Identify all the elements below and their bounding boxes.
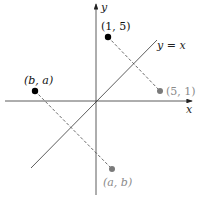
point-5-1 [157, 88, 163, 94]
point-1-5-label: (1, 5) [101, 20, 131, 33]
point-a-b-label: (a, b) [103, 176, 132, 189]
x-axis-label: x [186, 103, 193, 116]
reflection-diagram: y x y = x (1, 5) (5, 1) (b, a) (a, b) [0, 0, 199, 204]
point-b-a [32, 88, 38, 94]
point-1-5 [105, 34, 111, 40]
identity-line [31, 40, 157, 168]
point-b-a-label: (b, a) [24, 74, 53, 87]
dashed-connector-ba-ab [35, 91, 112, 169]
point-a-b [109, 166, 115, 172]
point-5-1-label: (5, 1) [166, 85, 196, 98]
identity-line-label: y = x [156, 39, 186, 52]
y-axis-label: y [100, 1, 108, 14]
